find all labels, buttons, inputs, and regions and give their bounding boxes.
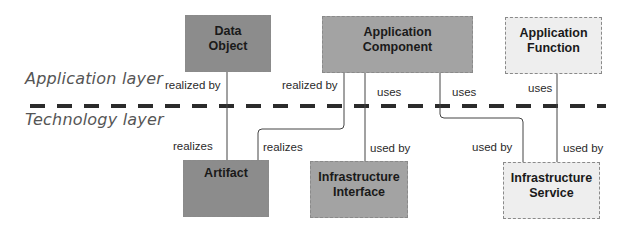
node-label: Infrastructure: [504, 171, 599, 186]
technology-layer-label: Technology layer: [25, 110, 164, 129]
node-application-function[interactable]: Application Function: [505, 17, 602, 74]
node-label: Service: [504, 186, 599, 201]
application-layer-label: Application layer: [25, 69, 163, 88]
edge-label: realized by: [165, 79, 221, 91]
node-label: Application: [506, 26, 601, 41]
node-label: Function: [506, 41, 601, 56]
edge-label: used by: [563, 142, 603, 154]
edge-label: realizes: [173, 140, 213, 152]
node-label: Application: [323, 25, 472, 40]
node-infrastructure-interface[interactable]: Infrastructure Interface: [310, 161, 408, 218]
node-data-object[interactable]: Data Object: [185, 15, 271, 72]
edge-label: uses: [452, 86, 476, 98]
node-label: Infrastructure: [311, 170, 407, 185]
edge-label: realizes: [263, 141, 303, 153]
edge-label: uses: [528, 82, 552, 94]
node-label: Data: [186, 24, 270, 39]
node-label: Object: [186, 39, 270, 54]
edge-label: used by: [370, 142, 410, 154]
node-artifact[interactable]: Artifact: [183, 160, 269, 217]
node-label: Component: [323, 40, 472, 55]
edge-label: uses: [377, 86, 401, 98]
node-application-component[interactable]: Application Component: [322, 16, 473, 73]
node-label: Interface: [311, 185, 407, 200]
node-infrastructure-service[interactable]: Infrastructure Service: [503, 162, 600, 219]
node-label: Artifact: [184, 166, 268, 181]
edge-label: realized by: [282, 79, 338, 91]
edge-label: used by: [472, 141, 512, 153]
